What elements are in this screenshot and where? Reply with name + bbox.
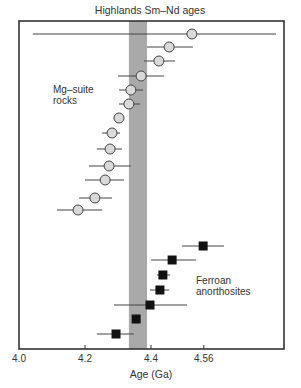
ferroan-label: Ferroan (196, 275, 231, 286)
data-point-circle (100, 175, 110, 185)
tick-label: 4.4 (144, 353, 158, 364)
tick-label: 4.56 (194, 353, 214, 364)
data-point-square (158, 271, 167, 280)
x-axis-ticks: 4.04.24.44.56 (12, 345, 214, 364)
series-labels: Mg–suiterocksFerroananorthosites (53, 84, 250, 297)
ferroan-label: anorthosites (196, 286, 250, 297)
data-point-circle (154, 56, 164, 66)
data-point-circle (126, 85, 136, 95)
plot-frame (19, 21, 284, 349)
data-point-circle (105, 144, 115, 154)
data-point-square (199, 242, 208, 251)
data-point-circle (114, 113, 124, 123)
data-point-circle (73, 205, 83, 215)
tick-label: 4.2 (78, 353, 92, 364)
data-point-square (155, 286, 164, 295)
data-point-square (146, 301, 155, 310)
data-point-square (132, 315, 141, 324)
data-point-circle (90, 193, 100, 203)
mg-suite-label: rocks (53, 95, 77, 106)
x-axis-label: Age (Ga) (130, 368, 173, 380)
data-point-square (112, 330, 121, 339)
data-point-circle (164, 42, 174, 52)
mg-suite-series (33, 29, 276, 215)
data-point-circle (107, 128, 117, 138)
data-point-circle (187, 29, 197, 39)
data-point-circle (104, 161, 114, 171)
tick-label: 4.0 (12, 353, 26, 364)
chart-title: Highlands Sm–Nd ages (95, 4, 205, 16)
data-point-circle (124, 99, 134, 109)
shaded-age-band (129, 21, 147, 349)
data-point-circle (136, 71, 146, 81)
mg-suite-label: Mg–suite (53, 84, 94, 95)
data-point-square (168, 256, 177, 265)
sm-nd-age-chart: Highlands Sm–Nd ages 4.04.24.44.56 Age (… (0, 0, 301, 388)
